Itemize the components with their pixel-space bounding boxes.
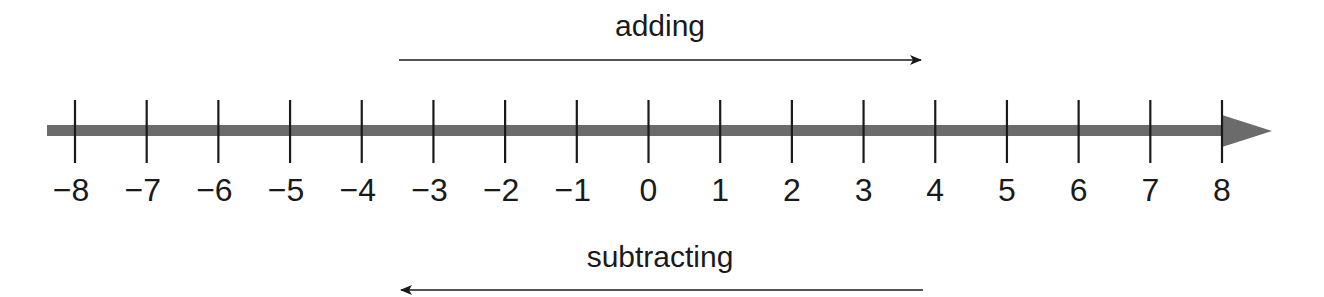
tick-label: −5 [268,174,304,206]
tick-label: 0 [640,174,658,206]
tick-label: −8 [53,174,89,206]
tick-label: 2 [783,174,801,206]
tick-label: 3 [855,174,873,206]
tick-label: −7 [124,174,160,206]
tick-label: −1 [555,174,591,206]
adding-label: adding [615,11,705,41]
tick-label: 7 [1141,174,1159,206]
axis-arrowhead-icon [1222,115,1272,147]
tick-label: 4 [926,174,944,206]
tick-label: 1 [711,174,729,206]
main-axis [47,115,1272,147]
tick-label: −3 [411,174,447,206]
tick-label: 6 [1070,174,1088,206]
tick-label: −2 [483,174,519,206]
tick-label: −6 [196,174,232,206]
tick-label: −4 [340,174,376,206]
tick-label: 5 [998,174,1016,206]
tick-label: 8 [1213,174,1231,206]
subtracting-label: subtracting [587,242,734,272]
